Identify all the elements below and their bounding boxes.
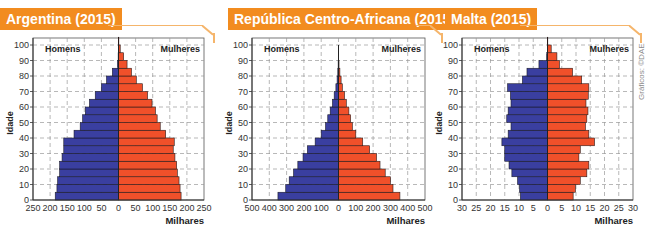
bar-men: [510, 92, 547, 100]
y-tick-label: 90: [19, 56, 29, 66]
x-tick-label: 5: [559, 203, 564, 213]
x-tick-label: 0: [116, 203, 121, 213]
bar-women: [548, 192, 574, 200]
y-tick-label: 30: [19, 149, 29, 159]
bar-men: [58, 177, 119, 185]
x-tick-label: 500: [417, 203, 432, 213]
y-tick-label: 40: [19, 133, 29, 143]
x-tick-label: 10: [514, 203, 524, 213]
x-tick-label: 20: [485, 203, 495, 213]
x-tick-label: 200: [179, 203, 194, 213]
bar-men: [85, 107, 118, 115]
bar-men: [112, 68, 118, 76]
bar-men: [334, 92, 338, 100]
x-tick-label: 25: [614, 203, 624, 213]
bar-women: [119, 68, 132, 76]
bar-women: [119, 99, 153, 107]
bar-men: [511, 123, 547, 131]
legend-women-label: Mulheres: [381, 44, 421, 54]
y-tick-label: 50: [238, 118, 248, 128]
bar-men: [330, 107, 338, 115]
x-tick-label: 400: [262, 203, 277, 213]
bar-women: [119, 84, 143, 92]
bar-men: [89, 99, 118, 107]
bar-men: [518, 177, 548, 185]
y-tick-label: 70: [19, 87, 29, 97]
y-tick-label: 100: [443, 40, 458, 50]
bar-women: [548, 99, 586, 107]
bar-women: [119, 61, 128, 69]
y-tick-label: 30: [448, 149, 458, 159]
y-tick-label: 10: [238, 180, 248, 190]
bar-women: [339, 107, 349, 115]
x-tick-label: 15: [500, 203, 510, 213]
bar-men: [289, 177, 338, 185]
x-tick-label: 150: [162, 203, 177, 213]
bar-women: [548, 138, 595, 146]
bar-men: [527, 68, 548, 76]
bar-men: [511, 99, 547, 107]
bar-women: [119, 115, 158, 123]
bar-men: [509, 161, 547, 169]
x-tick-label: 0: [336, 203, 341, 213]
y-axis-label: Idade: [5, 111, 15, 135]
population-pyramids: 0102030405060708090100250200150100500501…: [0, 0, 653, 232]
y-tick-label: 60: [448, 102, 458, 112]
bar-women: [119, 130, 166, 138]
legend-women-label: Mulheres: [589, 44, 629, 54]
bar-men: [64, 146, 119, 154]
bar-women: [548, 92, 589, 100]
bar-women: [339, 84, 343, 92]
y-axis-label: Idade: [434, 111, 444, 135]
x-axis-label: Milhares: [165, 215, 204, 226]
x-tick-label: 200: [366, 203, 381, 213]
bar-women: [119, 192, 182, 200]
y-tick-label: 90: [448, 56, 458, 66]
bar-women: [548, 146, 581, 154]
x-tick-label: 25: [471, 203, 481, 213]
bar-men: [508, 107, 547, 115]
x-tick-label: 250: [25, 203, 40, 213]
bar-men: [83, 115, 119, 123]
pyramid-argentina: 0102030405060708090100250200150100500501…: [5, 37, 212, 226]
bar-women: [548, 123, 586, 131]
bar-women: [339, 115, 351, 123]
bar-men: [328, 115, 339, 123]
x-tick-label: 10: [571, 203, 581, 213]
y-tick-label: 90: [238, 56, 248, 66]
x-tick-label: 300: [383, 203, 398, 213]
pyramid-malta: 0102030405060708090100302520151050510152…: [434, 37, 638, 226]
bar-women: [119, 146, 174, 154]
bar-women: [339, 123, 353, 131]
x-tick-label: 400: [400, 203, 415, 213]
bar-men: [321, 130, 338, 138]
bar-men: [107, 76, 119, 84]
y-tick-label: 50: [448, 118, 458, 128]
legend-men-label: Homens: [45, 44, 81, 54]
bar-women: [339, 161, 381, 169]
bar-women: [548, 161, 589, 169]
bar-women: [548, 53, 557, 61]
bar-men: [286, 185, 339, 193]
bar-women: [339, 177, 391, 185]
bar-women: [119, 154, 175, 162]
x-tick-label: 50: [131, 203, 141, 213]
x-tick-label: 100: [314, 203, 329, 213]
y-tick-label: 70: [448, 87, 458, 97]
bar-men: [307, 146, 338, 154]
bar-women: [119, 185, 181, 193]
bar-women: [119, 92, 148, 100]
bar-women: [119, 138, 175, 146]
bar-women: [339, 185, 393, 193]
bar-men: [522, 76, 547, 84]
y-tick-label: 40: [238, 133, 248, 143]
x-tick-label: 5: [531, 203, 536, 213]
bar-women: [548, 107, 588, 115]
bar-men: [303, 154, 338, 162]
x-tick-label: 20: [599, 203, 609, 213]
bar-women: [548, 185, 576, 193]
x-tick-label: 250: [196, 203, 211, 213]
bar-men: [57, 185, 119, 193]
x-tick-label: 300: [279, 203, 294, 213]
bar-men: [298, 161, 339, 169]
